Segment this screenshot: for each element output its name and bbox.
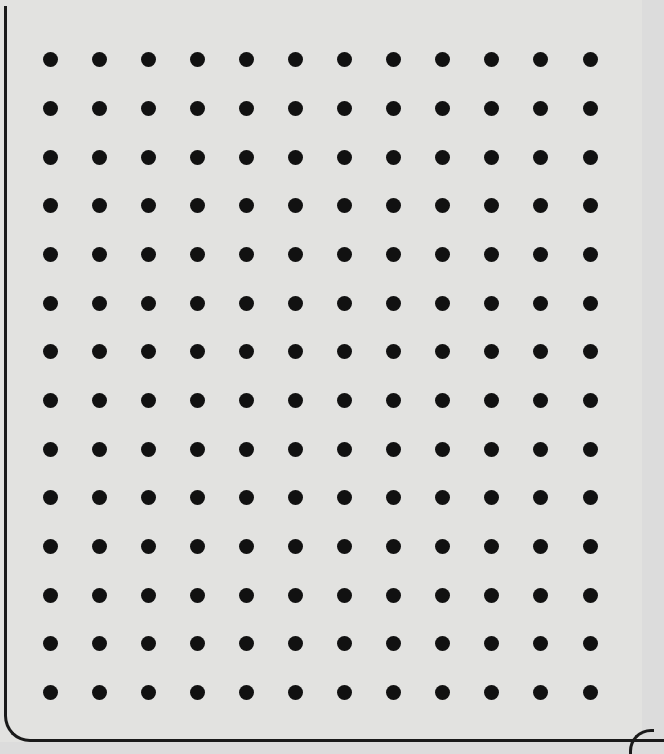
grid-dot xyxy=(288,588,303,603)
grid-dot xyxy=(435,442,450,457)
grid-dot xyxy=(435,539,450,554)
grid-dot xyxy=(386,490,401,505)
grid-dot xyxy=(583,588,598,603)
grid-dot xyxy=(337,588,352,603)
grid-dot xyxy=(533,198,548,213)
grid-dot xyxy=(386,442,401,457)
grid-dot xyxy=(533,344,548,359)
grid-dot xyxy=(386,150,401,165)
grid-dot xyxy=(583,150,598,165)
grid-dot xyxy=(533,539,548,554)
grid-dot xyxy=(533,247,548,262)
grid-dot xyxy=(43,52,58,67)
grid-dot xyxy=(239,442,254,457)
grid-dot xyxy=(92,393,107,408)
grid-dot xyxy=(92,490,107,505)
grid-dot xyxy=(435,490,450,505)
grid-dot xyxy=(386,539,401,554)
grid-dot xyxy=(239,490,254,505)
grid-dot xyxy=(484,636,499,651)
grid-dot xyxy=(141,490,156,505)
grid-dot xyxy=(141,442,156,457)
grid-dot xyxy=(190,101,205,116)
grid-dot xyxy=(484,101,499,116)
grid-dot xyxy=(435,685,450,700)
grid-dot xyxy=(43,588,58,603)
grid-dot xyxy=(43,685,58,700)
grid-dot xyxy=(583,198,598,213)
grid-dot xyxy=(435,344,450,359)
grid-dot xyxy=(533,393,548,408)
grid-dot xyxy=(386,101,401,116)
grid-dot xyxy=(288,442,303,457)
grid-dot xyxy=(337,344,352,359)
grid-dot xyxy=(583,296,598,311)
grid-dot xyxy=(190,442,205,457)
grid-dot xyxy=(141,296,156,311)
grid-dot xyxy=(533,150,548,165)
grid-dot xyxy=(583,490,598,505)
grid-dot xyxy=(386,296,401,311)
grid-dot xyxy=(190,198,205,213)
grid-dot xyxy=(484,588,499,603)
grid-dot xyxy=(484,344,499,359)
grid-dot xyxy=(583,636,598,651)
grid-dot xyxy=(43,539,58,554)
grid-dot xyxy=(435,198,450,213)
grid-dot xyxy=(435,588,450,603)
grid-dot xyxy=(337,442,352,457)
grid-dot xyxy=(386,588,401,603)
grid-dot xyxy=(239,52,254,67)
grid-dot xyxy=(337,101,352,116)
grid-dot xyxy=(288,636,303,651)
grid-dot xyxy=(484,442,499,457)
grid-dot xyxy=(239,101,254,116)
grid-dot xyxy=(92,101,107,116)
grid-dot xyxy=(92,247,107,262)
grid-dot xyxy=(239,150,254,165)
grid-dot xyxy=(190,296,205,311)
grid-dot xyxy=(190,150,205,165)
grid-dot xyxy=(239,296,254,311)
grid-dot xyxy=(43,393,58,408)
grid-dot xyxy=(43,150,58,165)
grid-dot xyxy=(484,490,499,505)
grid-dot xyxy=(386,685,401,700)
grid-dot xyxy=(484,296,499,311)
grid-dot xyxy=(583,442,598,457)
grid-dot xyxy=(337,52,352,67)
grid-dot xyxy=(484,247,499,262)
grid-dot xyxy=(583,52,598,67)
grid-dot xyxy=(337,539,352,554)
grid-dot xyxy=(386,636,401,651)
grid-dot xyxy=(43,344,58,359)
grid-dot xyxy=(533,442,548,457)
grid-dot xyxy=(337,296,352,311)
grid-dot xyxy=(435,247,450,262)
grid-dot xyxy=(43,490,58,505)
grid-dot xyxy=(190,247,205,262)
grid-dot xyxy=(190,636,205,651)
grid-dot xyxy=(288,490,303,505)
grid-dot xyxy=(435,150,450,165)
grid-dot xyxy=(43,198,58,213)
grid-dot xyxy=(239,636,254,651)
grid-dot xyxy=(43,101,58,116)
grid-dot xyxy=(239,685,254,700)
grid-dot xyxy=(43,442,58,457)
grid-dot xyxy=(92,344,107,359)
grid-dot xyxy=(435,393,450,408)
grid-dot xyxy=(239,344,254,359)
grid-dot xyxy=(484,393,499,408)
grid-dot xyxy=(141,539,156,554)
grid-dot xyxy=(288,101,303,116)
grid-dot xyxy=(337,393,352,408)
grid-dot xyxy=(386,198,401,213)
grid-dot xyxy=(239,393,254,408)
grid-dot xyxy=(484,198,499,213)
grid-dot xyxy=(386,344,401,359)
grid-dot xyxy=(141,247,156,262)
grid-dot xyxy=(583,393,598,408)
